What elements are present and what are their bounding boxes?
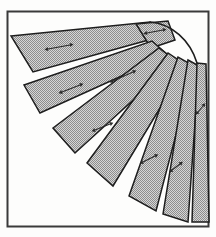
- pattern-illustration: gore 1gore 2gore 3gore 4gore 5gore 6gore…: [0, 0, 216, 237]
- pattern-figure: Gored skirt pattern layout Fan of tapere…: [0, 0, 216, 237]
